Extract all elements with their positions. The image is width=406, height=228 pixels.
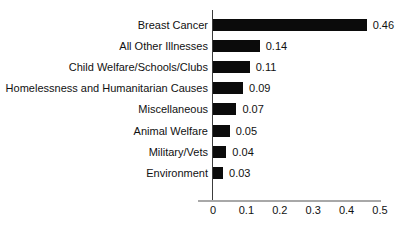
category-label: Animal Welfare	[0, 120, 208, 141]
category-label: Environment	[0, 162, 208, 183]
category-label: Breast Cancer	[0, 14, 208, 35]
horizontal-bar-chart: Breast Cancer0.46All Other Illnesses0.14…	[0, 0, 406, 228]
value-label: 0.04	[232, 141, 253, 162]
value-label: 0.46	[373, 14, 394, 35]
value-label: 0.03	[229, 162, 250, 183]
bar	[213, 167, 223, 179]
value-label: 0.11	[256, 56, 277, 77]
x-tick-label: 0	[210, 204, 216, 216]
value-label: 0.07	[242, 99, 263, 120]
category-label: Military/Vets	[0, 141, 208, 162]
value-label: 0.05	[236, 120, 257, 141]
x-tick-label: 0.5	[372, 204, 387, 216]
bar-row: Miscellaneous0.07	[0, 99, 406, 120]
bar-row: Animal Welfare0.05	[0, 120, 406, 141]
bar-row: Breast Cancer0.46	[0, 14, 406, 35]
bar	[213, 40, 260, 52]
bar-row: All Other Illnesses0.14	[0, 35, 406, 56]
x-axis-line	[198, 200, 381, 202]
bar	[213, 125, 230, 137]
bar	[213, 19, 367, 31]
bar	[213, 103, 236, 115]
x-tick-label: 0.4	[339, 204, 354, 216]
category-label: Child Welfare/Schools/Clubs	[0, 56, 208, 77]
x-tick-label: 0.2	[272, 204, 287, 216]
y-axis-baseline	[212, 10, 213, 201]
category-label: Homelessness and Humanitarian Causes	[0, 78, 208, 99]
value-label: 0.09	[249, 78, 270, 99]
bar	[213, 146, 226, 158]
category-label: Miscellaneous	[0, 99, 208, 120]
bar-row: Environment0.03	[0, 162, 406, 183]
bar-row: Child Welfare/Schools/Clubs0.11	[0, 56, 406, 77]
bar-row: Military/Vets0.04	[0, 141, 406, 162]
x-tick-label: 0.1	[239, 204, 254, 216]
value-label: 0.14	[266, 35, 287, 56]
bar	[213, 61, 250, 73]
bar-row: Homelessness and Humanitarian Causes0.09	[0, 78, 406, 99]
x-tick-label: 0.3	[306, 204, 321, 216]
category-label: All Other Illnesses	[0, 35, 208, 56]
bar	[213, 82, 243, 94]
